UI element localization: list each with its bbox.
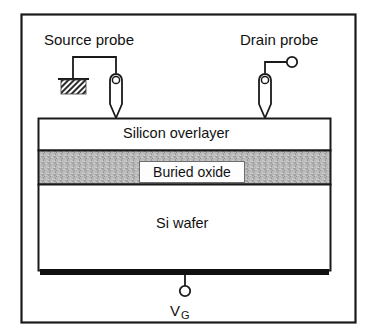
- gate-voltage-symbol: V: [170, 302, 180, 319]
- gate-voltage-subscript: G: [181, 309, 190, 321]
- drain-probe-label: Drain probe: [240, 32, 318, 47]
- si-wafer-label: Si wafer: [156, 216, 208, 231]
- buried-oxide-callout-box: Buried oxide: [139, 161, 245, 183]
- source-probe-wire: [73, 57, 116, 79]
- silicon-overlayer-label: Silicon overlayer: [123, 126, 229, 141]
- drain-terminal-circle: [287, 57, 297, 67]
- source-probe-body: [110, 74, 122, 118]
- ground-symbol: [58, 79, 89, 94]
- buried-oxide-label: Buried oxide: [140, 162, 244, 182]
- drain-probe-wire: [265, 62, 286, 73]
- soi-device-diagram: Source probe Drain probe Silicon overlay…: [0, 0, 371, 335]
- back-gate-contact: [40, 269, 329, 275]
- gate-voltage-label: VG: [170, 302, 190, 321]
- source-probe-label: Source probe: [44, 32, 134, 47]
- drain-probe-body: [259, 74, 271, 118]
- gate-terminal-circle: [180, 286, 190, 296]
